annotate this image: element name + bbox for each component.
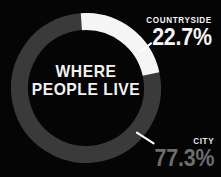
callout-city-value: 77.3% <box>154 147 214 170</box>
callout-countryside-value: 22.7% <box>144 26 212 49</box>
callout-countryside: COUNTRYSIDE 22.7% <box>139 15 212 49</box>
donut-chart-infographic: WHERE PEOPLE LIVE COUNTRYSIDE 22.7% CITY… <box>0 0 221 177</box>
callout-city: CITY 77.3% <box>150 136 214 170</box>
